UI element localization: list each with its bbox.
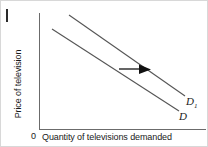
curve-label-d1-subscript: 1 — [194, 102, 198, 110]
y-axis-label: Price of television — [13, 36, 23, 132]
curve-label-d: D — [179, 110, 187, 122]
chart-canvas — [1, 1, 208, 147]
demand-curve-original — [52, 29, 179, 111]
curve-label-d1-text: D — [186, 95, 194, 107]
origin-label: 0 — [31, 131, 36, 141]
curve-label-d1: D1 — [186, 95, 197, 110]
x-axis-label: Quantity of televisions demanded — [42, 132, 172, 142]
shift-arrow — [119, 65, 151, 75]
demand-shift-figure: Price of television Quantity of televisi… — [0, 0, 208, 147]
demand-curve-shifted — [69, 15, 185, 96]
